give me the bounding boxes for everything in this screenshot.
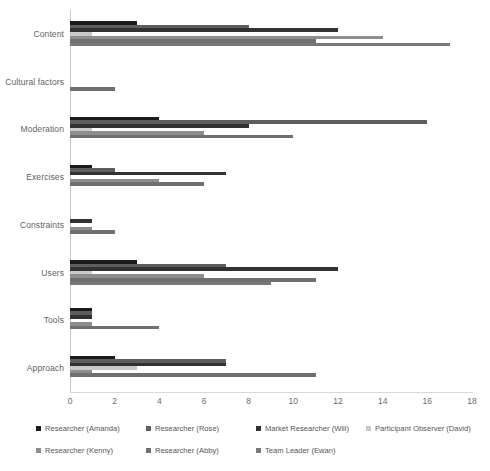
category-group: Cultural factors [70, 58, 472, 106]
bar-chart: ContentCultural factorsModerationExercis… [0, 0, 490, 471]
legend-label: Researcher (Abby) [155, 446, 219, 455]
category-label: Cultural factors [5, 77, 64, 87]
bar-row [70, 186, 472, 190]
legend-item[interactable]: Team Leader (Ewan) [256, 446, 336, 455]
x-tick-label: 2 [112, 396, 117, 406]
bar-row [70, 138, 472, 142]
legend-label: Team Leader (Ewan) [265, 446, 336, 455]
bar-row [70, 43, 472, 47]
x-tick-label: 12 [333, 396, 342, 406]
category-group: Approach [70, 344, 472, 392]
category-group: Constraints [70, 201, 472, 249]
legend-item[interactable]: Researcher (Amanda) [36, 424, 120, 433]
legend-label: Researcher (Kenny) [45, 446, 113, 455]
chart-legend: Researcher (Amanda)Researcher (Rose)Mark… [0, 420, 490, 471]
bar[interactable] [70, 282, 271, 286]
legend-item[interactable]: Researcher (Kenny) [36, 446, 113, 455]
category-label: Approach [27, 363, 64, 373]
legend-label: Market Researcher (Will) [265, 424, 349, 433]
category-group: Content [70, 10, 472, 58]
bar-row [70, 234, 472, 238]
plot-area: ContentCultural factorsModerationExercis… [70, 10, 472, 392]
legend-item[interactable]: Researcher (Rose) [146, 424, 219, 433]
category-group: Tools [70, 297, 472, 345]
x-tick-label: 14 [378, 396, 387, 406]
legend-swatch-icon [256, 426, 261, 431]
x-tick-label: 16 [423, 396, 432, 406]
legend-item[interactable]: Participant Observer (David) [366, 424, 471, 433]
x-tick-label: 0 [68, 396, 73, 406]
legend-swatch-icon [256, 448, 261, 453]
bar-stack [70, 212, 472, 237]
x-tick-label: 6 [202, 396, 207, 406]
category-group: Users [70, 249, 472, 297]
legend-swatch-icon [36, 426, 41, 431]
legend-item[interactable]: Researcher (Abby) [146, 446, 219, 455]
legend-swatch-icon [146, 426, 151, 431]
category-label: Moderation [20, 124, 64, 134]
bar-row [70, 377, 472, 381]
x-tick-label: 4 [157, 396, 162, 406]
category-group: Moderation [70, 106, 472, 154]
bar-stack [70, 260, 472, 285]
x-axis-tick-labels: 024681012141618 [0, 392, 490, 412]
bar-stack [70, 69, 472, 94]
bar-stack [70, 308, 472, 333]
bar-row [70, 91, 472, 95]
category-label: Exercises [26, 172, 64, 182]
category-label: Content [34, 29, 64, 39]
legend-swatch-icon [366, 426, 371, 431]
bar-stack [70, 21, 472, 46]
legend-label: Participant Observer (David) [375, 424, 471, 433]
bar-stack [70, 356, 472, 381]
bar-row [70, 282, 472, 286]
category-group: Exercises [70, 153, 472, 201]
bar[interactable] [70, 43, 450, 47]
legend-swatch-icon [146, 448, 151, 453]
x-tick-label: 18 [467, 396, 476, 406]
legend-item[interactable]: Market Researcher (Will) [256, 424, 349, 433]
legend-label: Researcher (Amanda) [45, 424, 120, 433]
x-tick-label: 8 [246, 396, 251, 406]
bar-row [70, 329, 472, 333]
bar-stack [70, 117, 472, 142]
legend-label: Researcher (Rose) [155, 424, 219, 433]
x-tick-label: 10 [289, 396, 298, 406]
category-label: Users [41, 268, 64, 278]
category-label: Constraints [20, 220, 64, 230]
bar-stack [70, 165, 472, 190]
category-label: Tools [44, 315, 64, 325]
legend-swatch-icon [36, 448, 41, 453]
